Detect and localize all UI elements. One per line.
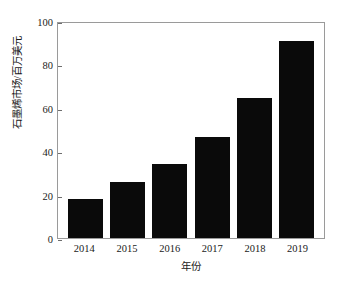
x-tick-label-2017: 2017 [195, 241, 230, 257]
bar-2016 [152, 164, 187, 238]
y-tick-label: 20 [43, 191, 54, 202]
x-tick-label-2015: 2015 [109, 241, 144, 257]
y-tick-label: 100 [37, 18, 53, 29]
x-tick-label-2019: 2019 [280, 241, 315, 257]
y-tick-label: 0 [48, 235, 53, 246]
bar-2018 [237, 98, 272, 238]
x-tick-label-2014: 2014 [67, 241, 102, 257]
plot-area: 020406080100 [57, 22, 325, 239]
x-tick-label-2016: 2016 [152, 241, 187, 257]
y-tick-label: 60 [43, 105, 54, 116]
y-tick-label: 80 [43, 61, 54, 72]
bar-series [58, 23, 324, 238]
x-axis-tick-labels: 201420152016201720182019 [57, 241, 325, 257]
y-tick-label: 40 [43, 148, 54, 159]
bar-2015 [110, 182, 145, 238]
bar-chart-figure: 020406080100 201420152016201720182019 年份… [0, 0, 343, 289]
bar-2019 [279, 41, 314, 238]
bar-2014 [68, 199, 103, 238]
x-tick-label-2018: 2018 [237, 241, 272, 257]
y-axis-title: 石墨烯市场/百万美元 [9, 18, 24, 148]
bar-2017 [195, 137, 230, 238]
x-axis-title: 年份 [57, 258, 325, 273]
